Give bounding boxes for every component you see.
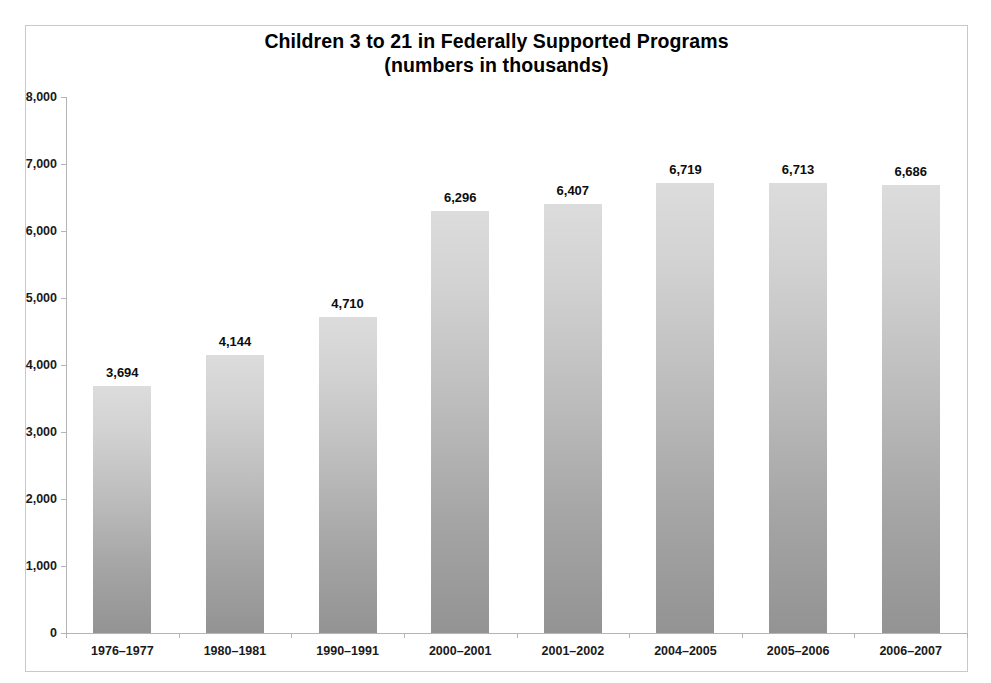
bar-value-label: 6,713	[782, 162, 815, 177]
bar	[544, 204, 602, 633]
x-axis-category-label: 2005–2006	[767, 644, 830, 658]
x-axis-category-label: 1980–1981	[204, 644, 267, 658]
y-axis-tick-label: 6,000	[26, 224, 57, 238]
bar-value-label: 6,296	[444, 190, 477, 205]
x-axis-tick-mark	[629, 633, 630, 638]
x-axis-category-label: 2000–2001	[429, 644, 492, 658]
y-axis-tick-label: 0	[50, 626, 57, 640]
bar	[431, 211, 489, 633]
bar-value-label: 6,719	[669, 162, 702, 177]
bar-group: 4,1441980–1981	[179, 97, 292, 633]
bar-group: 4,7101990–1991	[291, 97, 404, 633]
bar	[319, 317, 377, 633]
x-axis-tick-mark	[967, 633, 968, 638]
y-axis-tick-label: 2,000	[26, 492, 57, 506]
y-axis-tick-label: 1,000	[26, 559, 57, 573]
y-axis-tick-label: 5,000	[26, 291, 57, 305]
bar-value-label: 6,407	[557, 183, 590, 198]
bar-group: 6,2962000–2001	[404, 97, 517, 633]
x-axis-tick-mark	[854, 633, 855, 638]
bar-group: 6,6862006–2007	[854, 97, 967, 633]
bar-value-label: 3,694	[106, 365, 139, 380]
plot-area: 01,0002,0003,0004,0005,0006,0007,0008,00…	[66, 97, 967, 633]
bar	[93, 386, 151, 633]
x-axis-tick-mark	[517, 633, 518, 638]
x-axis-tick-mark	[66, 633, 67, 638]
chart-figure: Children 3 to 21 in Federally Supported …	[0, 0, 991, 683]
chart-title-line-2: (numbers in thousands)	[25, 54, 968, 78]
bar-value-label: 6,686	[894, 164, 927, 179]
chart-title: Children 3 to 21 in Federally Supported …	[25, 30, 968, 78]
x-axis-category-label: 1976–1977	[91, 644, 154, 658]
bar	[206, 355, 264, 633]
x-axis-category-label: 2001–2002	[542, 644, 605, 658]
x-axis-category-label: 1990–1991	[316, 644, 379, 658]
x-axis-category-label: 2004–2005	[654, 644, 717, 658]
bar-group: 6,7132005–2006	[742, 97, 855, 633]
y-axis-tick-label: 8,000	[26, 90, 57, 104]
x-axis-tick-mark	[179, 633, 180, 638]
bar-group: 6,4072001–2002	[517, 97, 630, 633]
bar-value-label: 4,144	[219, 334, 252, 349]
bar	[769, 183, 827, 633]
x-axis-category-label: 2006–2007	[879, 644, 942, 658]
x-axis-tick-mark	[742, 633, 743, 638]
bar-value-label: 4,710	[331, 296, 364, 311]
bar	[882, 185, 940, 633]
y-axis-tick-label: 7,000	[26, 157, 57, 171]
x-axis-tick-mark	[291, 633, 292, 638]
y-axis-tick-label: 4,000	[26, 358, 57, 372]
x-axis-tick-mark	[404, 633, 405, 638]
bar-group: 6,7192004–2005	[629, 97, 742, 633]
chart-title-line-1: Children 3 to 21 in Federally Supported …	[25, 30, 968, 54]
y-axis-tick-label: 3,000	[26, 425, 57, 439]
bar-group: 3,6941976–1977	[66, 97, 179, 633]
bar	[656, 183, 714, 633]
